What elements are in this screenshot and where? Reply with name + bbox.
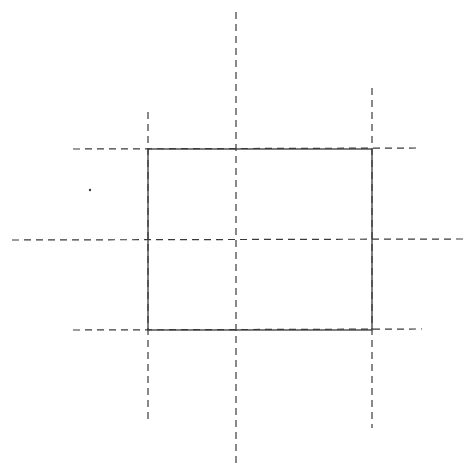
stray-dot (89, 189, 91, 191)
dashed-guide-lines (12, 12, 463, 465)
dashed-line-center-horizontal (12, 239, 463, 240)
grid-rectangle-diagram (0, 0, 476, 475)
diagram-canvas (0, 0, 476, 475)
